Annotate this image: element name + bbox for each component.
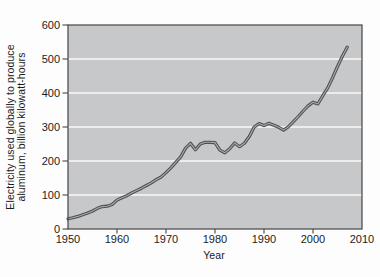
svg-text:500: 500 bbox=[42, 53, 60, 65]
y-axis-tick-labels: 0100200300400500600 bbox=[42, 19, 60, 235]
svg-text:2010: 2010 bbox=[350, 233, 374, 245]
svg-text:1950: 1950 bbox=[56, 233, 80, 245]
x-axis-title: Year bbox=[203, 249, 225, 261]
aluminum-electricity-figure: 0100200300400500600 19501960197019801990… bbox=[0, 0, 380, 277]
svg-text:200: 200 bbox=[42, 155, 60, 167]
svg-text:600: 600 bbox=[42, 19, 60, 31]
svg-text:2000: 2000 bbox=[301, 233, 325, 245]
svg-text:1970: 1970 bbox=[154, 233, 178, 245]
svg-text:300: 300 bbox=[42, 121, 60, 133]
svg-text:1960: 1960 bbox=[105, 233, 129, 245]
svg-text:100: 100 bbox=[42, 189, 60, 201]
y-axis-title-line2: aluminum, billion kilowatt-hours bbox=[15, 52, 27, 201]
x-axis-tick-labels: 1950196019701980199020002010 bbox=[56, 233, 374, 245]
svg-text:400: 400 bbox=[42, 87, 60, 99]
svg-text:1980: 1980 bbox=[203, 233, 227, 245]
svg-text:1990: 1990 bbox=[252, 233, 276, 245]
line-chart: 0100200300400500600 19501960197019801990… bbox=[0, 0, 380, 277]
